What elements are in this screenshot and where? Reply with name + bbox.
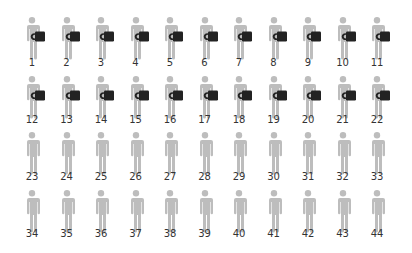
- person-with-mug: 18: [222, 76, 256, 132]
- person: 41: [257, 190, 291, 246]
- person-with-mug: 2: [50, 17, 84, 73]
- person: 26: [119, 132, 153, 188]
- person-number-label: 7: [222, 57, 256, 68]
- person: 42: [291, 190, 325, 246]
- person: 28: [188, 132, 222, 188]
- person-number-label: 3: [84, 57, 118, 68]
- person-number-label: 42: [291, 228, 325, 239]
- person-icon: [15, 132, 49, 176]
- person-icon: [257, 17, 291, 61]
- person-number-label: 31: [291, 171, 325, 182]
- person-icon: [84, 132, 118, 176]
- person-number-label: 21: [326, 114, 360, 125]
- person: 43: [326, 190, 360, 246]
- person-number-label: 1: [15, 57, 49, 68]
- person-icon: [153, 132, 187, 176]
- person-number-label: 43: [326, 228, 360, 239]
- person: 23: [15, 132, 49, 188]
- person-with-mug: 17: [188, 76, 222, 132]
- person-number-label: 13: [50, 114, 84, 125]
- person-number-label: 17: [188, 114, 222, 125]
- person: 29: [222, 132, 256, 188]
- person-with-mug: 20: [291, 76, 325, 132]
- person-number-label: 18: [222, 114, 256, 125]
- person-icon: [50, 132, 84, 176]
- person-with-mug: 4: [119, 17, 153, 73]
- person: 44: [360, 190, 394, 246]
- person-with-mug: 1: [15, 17, 49, 73]
- person: 39: [188, 190, 222, 246]
- person-number-label: 27: [153, 171, 187, 182]
- person-icon: [257, 132, 291, 176]
- person-number-label: 40: [222, 228, 256, 239]
- person-with-mug: 10: [326, 17, 360, 73]
- person-icon: [326, 17, 360, 61]
- person-number-label: 36: [84, 228, 118, 239]
- person-number-label: 5: [153, 57, 187, 68]
- person-number-label: 34: [15, 228, 49, 239]
- person-icon: [119, 17, 153, 61]
- person-number-label: 14: [84, 114, 118, 125]
- person-number-label: 19: [257, 114, 291, 125]
- person: 35: [50, 190, 84, 246]
- person-icon: [222, 17, 256, 61]
- person-number-label: 10: [326, 57, 360, 68]
- person-number-label: 44: [360, 228, 394, 239]
- person-with-mug: 6: [188, 17, 222, 73]
- people-pictogram-grid: 1234567891011121314151617181920212223242…: [0, 0, 412, 253]
- person: 36: [84, 190, 118, 246]
- person-number-label: 20: [291, 114, 325, 125]
- person-icon: [360, 132, 394, 176]
- person-icon: [291, 132, 325, 176]
- person-with-mug: 19: [257, 76, 291, 132]
- person-number-label: 25: [84, 171, 118, 182]
- person-number-label: 22: [360, 114, 394, 125]
- person-number-label: 41: [257, 228, 291, 239]
- person-number-label: 37: [119, 228, 153, 239]
- person-number-label: 12: [15, 114, 49, 125]
- person-number-label: 11: [360, 57, 394, 68]
- person-number-label: 35: [50, 228, 84, 239]
- person-number-label: 24: [50, 171, 84, 182]
- person-number-label: 29: [222, 171, 256, 182]
- person-number-label: 28: [188, 171, 222, 182]
- person: 37: [119, 190, 153, 246]
- person-number-label: 6: [188, 57, 222, 68]
- person-number-label: 8: [257, 57, 291, 68]
- person: 27: [153, 132, 187, 188]
- person-icon: [84, 17, 118, 61]
- person-with-mug: 21: [326, 76, 360, 132]
- person-number-label: 30: [257, 171, 291, 182]
- person-number-label: 39: [188, 228, 222, 239]
- person-icon: [291, 17, 325, 61]
- person-number-label: 33: [360, 171, 394, 182]
- person: 38: [153, 190, 187, 246]
- person-number-label: 15: [119, 114, 153, 125]
- person-with-mug: 13: [50, 76, 84, 132]
- person-icon: [188, 132, 222, 176]
- person-number-label: 9: [291, 57, 325, 68]
- person-icon: [222, 132, 256, 176]
- person-icon: [360, 17, 394, 61]
- person-with-mug: 7: [222, 17, 256, 73]
- person: 32: [326, 132, 360, 188]
- person-number-label: 4: [119, 57, 153, 68]
- person-number-label: 32: [326, 171, 360, 182]
- person-number-label: 16: [153, 114, 187, 125]
- person: 30: [257, 132, 291, 188]
- person: 25: [84, 132, 118, 188]
- person-number-label: 26: [119, 171, 153, 182]
- person-icon: [15, 17, 49, 61]
- person-number-label: 38: [153, 228, 187, 239]
- person-icon: [188, 17, 222, 61]
- person-icon: [119, 132, 153, 176]
- person-number-label: 2: [50, 57, 84, 68]
- person-with-mug: 14: [84, 76, 118, 132]
- person-number-label: 23: [15, 171, 49, 182]
- person-with-mug: 16: [153, 76, 187, 132]
- person-with-mug: 11: [360, 17, 394, 73]
- person: 24: [50, 132, 84, 188]
- person-with-mug: 22: [360, 76, 394, 132]
- person: 33: [360, 132, 394, 188]
- person: 34: [15, 190, 49, 246]
